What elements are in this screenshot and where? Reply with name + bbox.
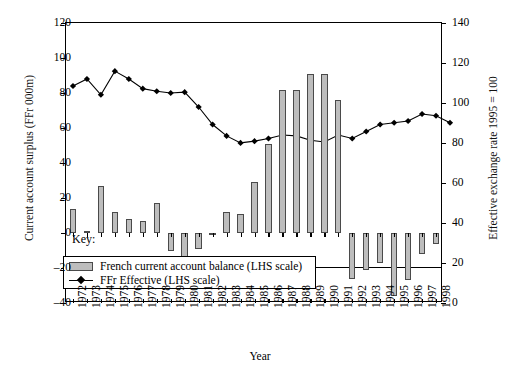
- chart-figure: Current account surplus (FFr 000m) Effec…: [0, 0, 520, 373]
- x-tick-mark: [101, 233, 102, 237]
- x-tick-label-1975: 1975: [118, 285, 130, 308]
- marker-1985: [251, 138, 257, 144]
- bar-1984: [237, 214, 243, 233]
- marker-1992: [349, 135, 355, 141]
- bar-1989: [307, 74, 313, 233]
- x-tick-mark: [157, 233, 158, 237]
- y-tick-label-right: 40: [452, 216, 492, 228]
- marker-1979: [168, 90, 174, 96]
- marker-1996: [405, 118, 411, 124]
- y-tick-label-right: 80: [452, 136, 492, 148]
- y-tick-label-left: 0: [31, 226, 71, 238]
- x-tick-mark: [241, 233, 242, 237]
- y-axis-label-right: Effective exchange rate 1995 = 100: [487, 43, 499, 273]
- marker-1984: [237, 140, 243, 146]
- x-tick-label-1977: 1977: [146, 285, 158, 308]
- y-tick-label-left: –40: [31, 296, 71, 308]
- x-tick-mark: [129, 233, 130, 237]
- y-tick-label-left: 60: [31, 121, 71, 133]
- bar-1990: [321, 74, 327, 233]
- x-tick-label-1989: 1989: [314, 285, 326, 308]
- x-tick-label-1978: 1978: [160, 285, 172, 308]
- marker-1994: [377, 121, 383, 127]
- x-tick-mark: [115, 233, 116, 237]
- bar-1988: [293, 90, 299, 234]
- x-tick-mark: [352, 233, 353, 237]
- y-tick-mark-right: [441, 183, 446, 184]
- bar-1977: [140, 221, 146, 233]
- bar-1987: [279, 90, 285, 234]
- y-tick-label-right: 120: [452, 56, 492, 68]
- x-tick-mark: [143, 233, 144, 237]
- y-tick-label-left: –20: [31, 261, 71, 273]
- bar-1994: [377, 233, 383, 263]
- x-tick-label-1972: 1972: [76, 285, 88, 308]
- line-diamond-icon: [69, 276, 93, 285]
- x-tick-label-1974: 1974: [104, 285, 116, 308]
- y-tick-label-right: 100: [452, 96, 492, 108]
- x-tick-mark: [296, 233, 297, 237]
- x-tick-label-1986: 1986: [272, 285, 284, 308]
- bar-1974: [98, 186, 104, 233]
- bar-1985: [251, 182, 257, 233]
- x-tick-label-1980: 1980: [188, 285, 200, 308]
- bar-1991: [335, 100, 341, 233]
- x-tick-mark: [380, 233, 381, 237]
- x-tick-label-1988: 1988: [300, 285, 312, 308]
- x-tick-mark: [268, 233, 269, 237]
- y-tick-mark-right: [441, 23, 446, 24]
- x-tick-label-1979: 1979: [174, 285, 186, 308]
- x-tick-mark: [227, 233, 228, 237]
- x-tick-label-1987: 1987: [286, 285, 298, 308]
- marker-1976: [126, 76, 132, 82]
- x-tick-mark-bottom: [73, 299, 74, 303]
- x-tick-label-1996: 1996: [412, 285, 424, 308]
- y-tick-label-left: 80: [31, 86, 71, 98]
- legend-item-bar: French current account balance (LHS scal…: [69, 259, 310, 273]
- x-tick-mark: [366, 233, 367, 237]
- marker-1978: [154, 88, 160, 94]
- y-tick-label-left: 20: [31, 191, 71, 203]
- x-tick-mark: [324, 233, 325, 237]
- y-tick-label-left: 40: [31, 156, 71, 168]
- x-tick-mark: [185, 233, 186, 237]
- marker-1975: [112, 68, 118, 74]
- y-tick-label-right: 60: [452, 176, 492, 188]
- x-tick-mark: [338, 233, 339, 237]
- line-path: [73, 71, 450, 143]
- x-tick-label-1976: 1976: [132, 285, 144, 308]
- key-label: Key:: [72, 232, 95, 247]
- x-tick-mark: [310, 233, 311, 237]
- x-tick-mark: [436, 233, 437, 237]
- x-tick-mark: [171, 233, 172, 237]
- marker-1977: [140, 86, 146, 92]
- x-tick-mark: [282, 233, 283, 237]
- y-tick-label-left: 100: [31, 51, 71, 63]
- x-tick-mark: [422, 233, 423, 237]
- x-tick-label-1994: 1994: [384, 285, 396, 308]
- y-tick-label-right: 20: [452, 256, 492, 268]
- bar-1976: [126, 219, 132, 233]
- y-tick-mark-right: [441, 103, 446, 104]
- y-tick-mark-right: [441, 223, 446, 224]
- x-tick-mark: [394, 233, 395, 237]
- x-tick-label-1990: 1990: [328, 285, 340, 308]
- x-tick-label-1982: 1982: [216, 285, 228, 308]
- x-tick-label-1997: 1997: [426, 285, 438, 308]
- x-tick-label-1992: 1992: [356, 285, 368, 308]
- x-tick-mark: [255, 233, 256, 237]
- x-tick-mark: [199, 233, 200, 237]
- y-tick-label-left: 120: [31, 16, 71, 28]
- bar-1975: [112, 212, 118, 233]
- y-tick-mark-right: [441, 143, 446, 144]
- x-tick-label-1981: 1981: [202, 285, 214, 308]
- bar-1986: [265, 144, 271, 233]
- bar-1978: [154, 203, 160, 233]
- marker-1993: [363, 128, 369, 134]
- y-tick-mark-right: [441, 63, 446, 64]
- x-axis-label: Year: [0, 350, 520, 362]
- marker-undefined: [447, 120, 453, 126]
- legend-item-bar-label: French current account balance (LHS scal…: [100, 260, 302, 272]
- x-tick-mark: [408, 233, 409, 237]
- y-tick-label-right: 140: [452, 16, 492, 28]
